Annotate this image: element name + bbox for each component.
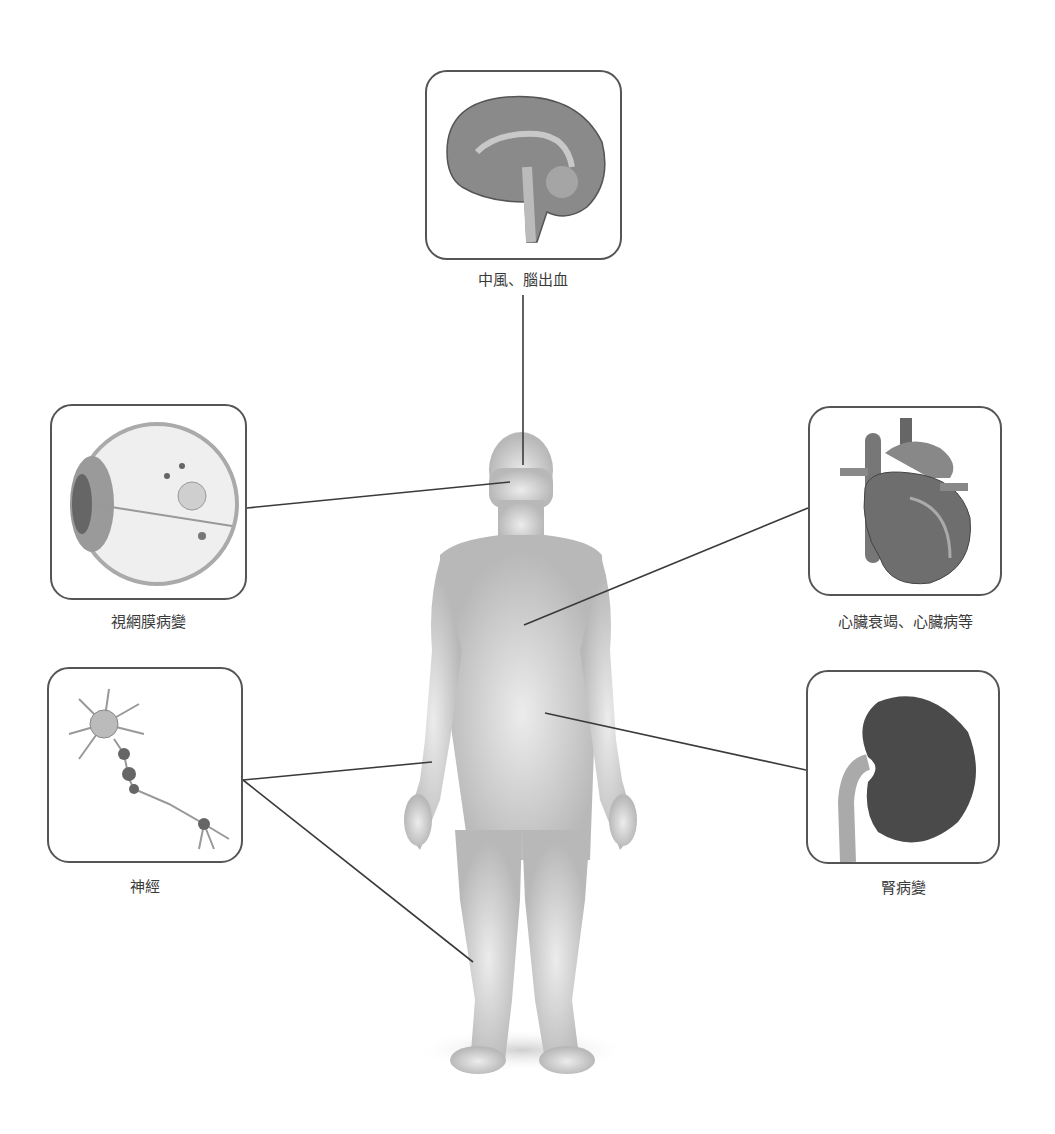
label-eye: 視網膜病變 [48,610,248,631]
label-brain: 中風、腦出血 [423,268,623,289]
connector-eye [247,482,510,508]
brain-icon [427,72,622,260]
neuron-icon [49,669,243,863]
kidney-icon [808,672,1000,864]
human-body-icon [404,432,637,1074]
label-kidney: 腎病變 [803,876,1003,897]
label-heart: 心臟衰竭、心臟病等 [800,610,1010,631]
panel-heart [808,406,1002,596]
connector-nerve-leg [243,780,473,962]
panel-nerve [47,667,243,863]
panel-brain [425,70,622,260]
heart-icon [810,408,1002,596]
panel-eye [50,404,247,600]
connector-nerve-arm [243,762,432,780]
panel-kidney [806,670,1000,864]
eye-icon [52,406,247,600]
diagram-canvas: 中風、腦出血 視網膜病變 心臟衰竭、心臟病等 [0,0,1055,1134]
label-nerve: 神經 [45,875,245,896]
